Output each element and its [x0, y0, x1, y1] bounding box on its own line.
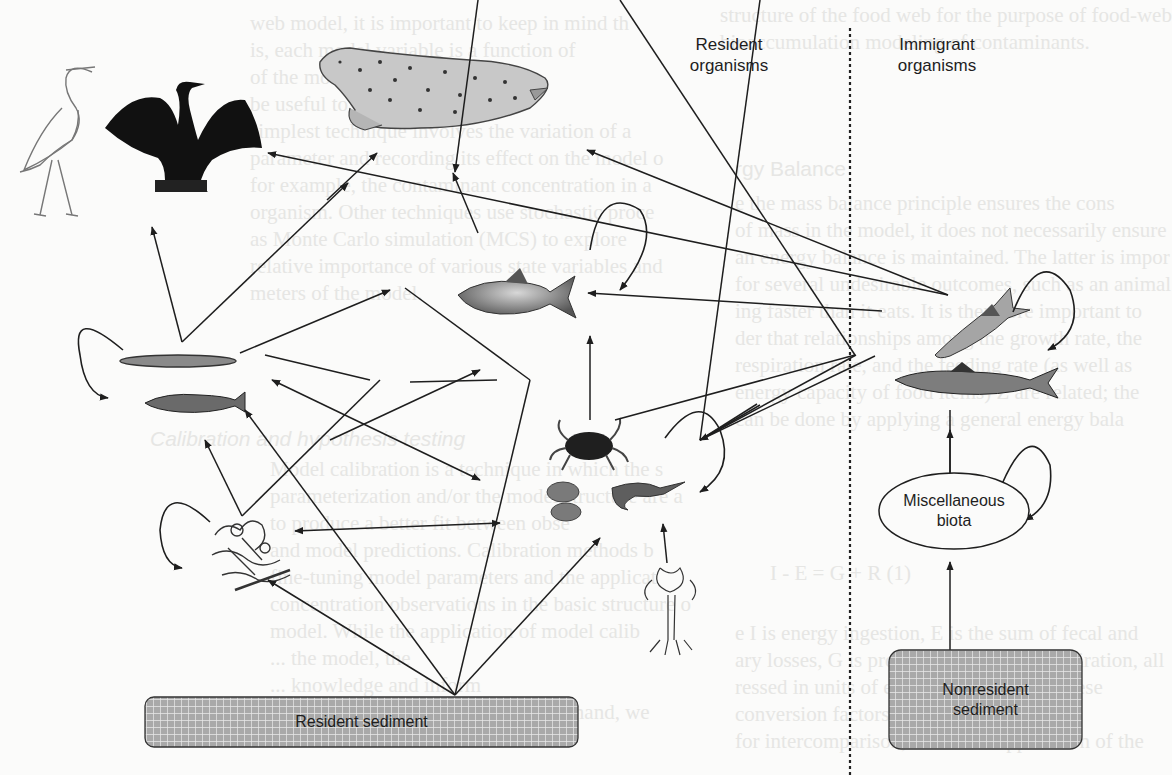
salmon-icon [935, 288, 1030, 358]
small-fish-icon [145, 392, 245, 412]
immigrant-organisms-header: Immigrant organisms [872, 34, 1002, 76]
heron-icon [20, 67, 95, 216]
trophic-arrows [152, 0, 950, 695]
forage-fish-icon [120, 355, 236, 367]
resident-organisms-header: Resident organisms [664, 34, 794, 76]
plant-icon [645, 568, 696, 655]
cormorant-icon [105, 82, 262, 192]
resident-sediment-label: Resident sediment [145, 712, 578, 732]
salmon-icon [895, 362, 1058, 398]
predatory-fish-icon [458, 268, 576, 318]
polychaete-icon [212, 521, 290, 590]
seal-icon [320, 48, 548, 130]
shrimp-icon [612, 482, 685, 510]
crab-icon [550, 418, 628, 470]
bivalve-icon [547, 482, 581, 521]
misc-biota-label: Miscellaneous biota [890, 491, 1018, 531]
nonresident-sediment-label: Nonresident sediment [889, 680, 1082, 720]
